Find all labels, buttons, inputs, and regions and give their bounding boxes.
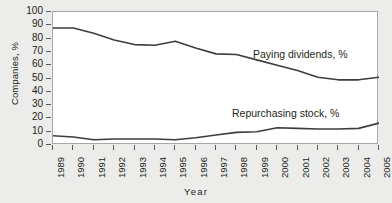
x-tick-mark [256, 145, 257, 150]
y-tick-mark [46, 38, 51, 39]
series-lines [53, 12, 379, 145]
x-tick-mark [276, 145, 277, 150]
y-tick-label: 40 [16, 86, 43, 96]
y-tick-mark [46, 117, 51, 118]
y-tick-mark [46, 51, 51, 52]
series-label-paying-dividends: Paying dividends, % [253, 49, 348, 60]
y-tick-label: 20 [16, 112, 43, 122]
x-tick-label: 2005 [382, 157, 392, 178]
x-tick-label: 1995 [178, 157, 188, 178]
x-tick-mark [72, 145, 73, 150]
x-tick-label: 1999 [260, 157, 270, 178]
x-tick-mark [93, 145, 94, 150]
plot-area [52, 11, 378, 144]
x-tick-mark [337, 145, 338, 150]
x-tick-mark [52, 145, 53, 150]
line-repurchasing-stock [53, 123, 379, 140]
y-tick-label: 30 [16, 99, 43, 109]
y-tick-mark [46, 64, 51, 65]
x-tick-label: 1991 [97, 157, 107, 178]
y-tick-label: 80 [16, 33, 43, 43]
y-axis-ticks: 0102030405060708090100 [16, 0, 43, 203]
y-tick-label: 90 [16, 19, 43, 29]
x-tick-mark [174, 145, 175, 150]
y-tick-mark [46, 104, 51, 105]
y-tick-mark [46, 144, 51, 145]
y-tick-mark [46, 131, 51, 132]
x-tick-label: 2004 [362, 157, 372, 178]
chart-figure: Companies, % 0102030405060708090100 1989… [0, 0, 392, 203]
x-tick-label: 1997 [219, 157, 229, 178]
y-tick-label: 10 [16, 126, 43, 136]
y-tick-label: 60 [16, 59, 43, 69]
y-tick-mark [46, 11, 51, 12]
x-tick-mark [317, 145, 318, 150]
x-tick-mark [154, 145, 155, 150]
x-axis-title: Year [0, 186, 392, 197]
x-tick-label: 1994 [158, 157, 168, 178]
series-label-repurchasing-stock: Repurchasing stock, % [232, 108, 339, 119]
y-tick-label: 70 [16, 46, 43, 56]
y-tick-label: 50 [16, 73, 43, 83]
x-tick-label: 1990 [76, 157, 86, 178]
x-tick-mark [297, 145, 298, 150]
x-tick-label: 1998 [239, 157, 249, 178]
x-tick-mark [215, 145, 216, 150]
y-tick-mark [46, 78, 51, 79]
y-tick-mark [46, 91, 51, 92]
x-tick-mark [195, 145, 196, 150]
y-tick-mark [46, 24, 51, 25]
x-tick-label: 2002 [321, 157, 331, 178]
x-tick-mark [358, 145, 359, 150]
x-tick-label: 2001 [301, 157, 311, 178]
x-tick-label: 1996 [199, 157, 209, 178]
x-tick-mark [113, 145, 114, 150]
x-tick-label: 1993 [138, 157, 148, 178]
x-tick-label: 1992 [117, 157, 127, 178]
x-tick-mark [235, 145, 236, 150]
x-tick-label: 2003 [341, 157, 351, 178]
x-tick-mark [134, 145, 135, 150]
x-tick-label: 2000 [280, 157, 290, 178]
x-tick-label: 1989 [56, 157, 66, 178]
y-tick-label: 0 [16, 139, 43, 149]
x-tick-mark [378, 145, 379, 150]
y-tick-label: 100 [16, 6, 43, 16]
